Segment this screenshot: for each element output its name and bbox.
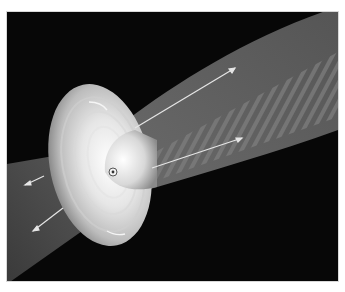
illustration-frame [7, 12, 338, 281]
accretion-disk-illustration [7, 12, 338, 281]
